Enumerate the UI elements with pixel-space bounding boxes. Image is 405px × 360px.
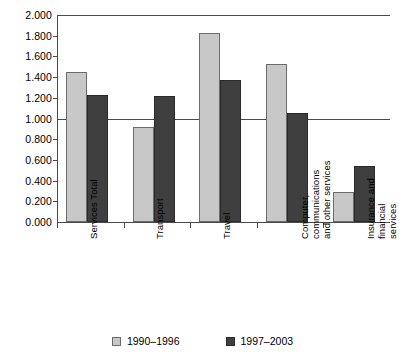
bar-chart: 2.0001.8001.6001.4001.2001.0000.8000.600… <box>0 0 405 360</box>
y-axis-tick-label: 0.400 <box>0 175 52 186</box>
y-axis-tick-label: 0.200 <box>0 196 52 207</box>
bar <box>333 192 354 222</box>
legend-entry: 1990–1996 <box>112 336 180 347</box>
legend-label: 1990–1996 <box>127 336 180 347</box>
category-label-line: Transport <box>154 228 165 239</box>
y-axis-tick-label: 1.400 <box>0 72 52 83</box>
category-label-line: financial <box>376 228 387 239</box>
category-label-line: communications <box>310 228 321 239</box>
legend-swatch-dark-icon <box>226 337 235 346</box>
category-label-line: Computer, <box>299 228 310 239</box>
bar <box>199 33 220 222</box>
category-label: Transport <box>154 228 165 239</box>
y-axis-tick-label: 1.600 <box>0 51 52 62</box>
y-axis: 2.0001.8001.6001.4001.2001.0000.8000.600… <box>0 0 52 240</box>
y-axis-tick-label: 1.000 <box>0 113 52 124</box>
legend-entry: 1997–2003 <box>226 336 294 347</box>
category-label: Insurance andfinancialservices <box>365 228 398 239</box>
chart-legend: 1990–19961997–2003 <box>0 331 405 351</box>
bar <box>133 127 154 222</box>
category-label-line: Services Total <box>88 228 99 239</box>
legend-label: 1997–2003 <box>241 336 294 347</box>
y-axis-tick-label: 0.000 <box>0 217 52 228</box>
category-label: Computer,communicationsand other service… <box>299 228 332 239</box>
bar <box>220 80 241 222</box>
bar-group <box>323 15 390 222</box>
category-label: Travel <box>221 228 232 239</box>
y-axis-tick-label: 1.200 <box>0 93 52 104</box>
category-label: Services Total <box>88 228 99 239</box>
bar-group <box>124 15 191 222</box>
bar <box>66 72 87 222</box>
category-label-line: services <box>387 228 398 239</box>
y-axis-tick-label: 1.800 <box>0 30 52 41</box>
x-axis-category-labels: Services TotalTransportTravelComputer,co… <box>57 228 390 320</box>
bar <box>266 64 287 222</box>
legend-swatch-light-icon <box>112 337 121 346</box>
plot-area <box>57 15 390 222</box>
category-label-line: Travel <box>221 228 232 239</box>
category-label-line: Insurance and <box>365 228 376 239</box>
y-axis-tick-label: 0.800 <box>0 134 52 145</box>
bar-group <box>190 15 257 222</box>
y-axis-tick-label: 2.000 <box>0 10 52 21</box>
y-axis-tick-label: 0.600 <box>0 155 52 166</box>
category-label-line: and other services <box>321 228 332 239</box>
